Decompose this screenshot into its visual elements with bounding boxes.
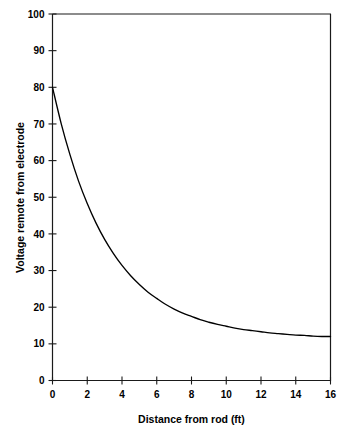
x-tick-label: 14 [290,389,302,400]
y-tick-label: 90 [33,45,45,56]
y-tick-label: 30 [33,265,45,276]
x-tick-label: 4 [119,389,125,400]
x-tick-label: 16 [325,389,337,400]
x-tick-label: 2 [84,389,90,400]
x-axis-title: Distance from rod (ft) [138,413,245,425]
chart-background [0,0,345,432]
y-tick-label: 0 [39,375,45,386]
y-tick-label: 80 [33,82,45,93]
y-tick-label: 70 [33,119,45,130]
y-tick-label: 60 [33,155,45,166]
line-chart-svg: 0102030405060708090100 0246810121416 Dis… [0,0,345,432]
x-tick-label: 6 [154,389,160,400]
y-axis-title: Voltage remote from electrode [14,122,26,273]
y-tick-label: 10 [33,338,45,349]
y-tick-label: 50 [33,192,45,203]
y-tick-label: 100 [28,9,45,20]
x-tick-label: 10 [221,389,233,400]
x-tick-label: 0 [50,389,56,400]
chart-figure: 0102030405060708090100 0246810121416 Dis… [0,0,345,432]
y-tick-label: 20 [33,302,45,313]
x-tick-label: 12 [255,389,267,400]
y-tick-label: 40 [33,229,45,240]
x-tick-label: 8 [189,389,195,400]
